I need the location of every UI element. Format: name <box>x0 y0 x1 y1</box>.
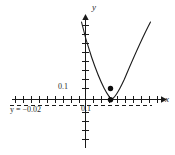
upper-point-marker <box>108 86 113 91</box>
asymptote-label: y = −0.02 <box>10 106 41 114</box>
x-axis-tick-label: 0.1 <box>81 105 91 113</box>
x-axis-label: x <box>165 95 169 104</box>
vertex-point-marker <box>108 97 113 102</box>
y-axis-tick-label: 0.1 <box>58 83 68 91</box>
y-axis-label: y <box>92 3 96 12</box>
graph-figure: y x 0.1 0.1 y = −0.02 <box>0 0 175 155</box>
coordinate-plot <box>0 0 175 155</box>
parabola-curve <box>82 22 151 100</box>
y-axis-arrowhead <box>82 14 88 20</box>
